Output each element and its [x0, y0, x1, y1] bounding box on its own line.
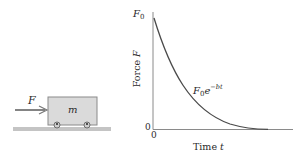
wheel-left	[54, 122, 60, 128]
y-max-label-base: F	[133, 8, 140, 19]
y-max-label-sub: 0	[140, 13, 144, 21]
y-axis-label-var: F	[131, 50, 142, 57]
ground	[13, 127, 111, 131]
curve-label-base: F	[193, 85, 200, 96]
force-label: F	[28, 95, 36, 106]
y-axis-label-text: Force	[131, 57, 142, 87]
x-axis-label: Time t	[193, 142, 224, 152]
y-origin-label: 0	[145, 123, 151, 132]
decay-curve	[154, 18, 268, 129]
wheel-right	[84, 122, 90, 128]
curve-label: F0e−bt	[193, 84, 223, 98]
curve-label-exponent: −bt	[210, 83, 222, 91]
x-axis-label-var: t	[220, 141, 224, 152]
mass-label: m	[68, 105, 77, 115]
y-max-label: F0	[133, 9, 144, 21]
x-axis-label-text: Time	[193, 141, 220, 152]
force-arrow-icon	[15, 106, 47, 114]
force-time-graph	[153, 12, 293, 130]
y-axis-label: Force F	[132, 45, 142, 93]
x-origin-label: 0	[151, 131, 157, 140]
